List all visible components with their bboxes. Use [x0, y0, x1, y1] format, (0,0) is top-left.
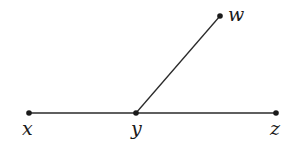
label-w: w	[228, 3, 244, 25]
point-y	[133, 110, 139, 116]
label-z: z	[269, 117, 281, 139]
point-x	[26, 110, 32, 116]
label-y: y	[130, 117, 142, 139]
point-w	[217, 13, 223, 19]
angle-diagram: x y z w	[0, 0, 288, 149]
point-z	[273, 110, 279, 116]
segment-yw	[136, 16, 220, 113]
label-x: x	[22, 117, 33, 139]
